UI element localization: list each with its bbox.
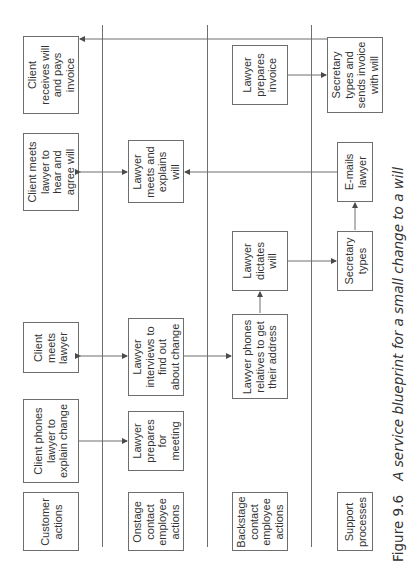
figure-caption: Figure 9.6 A service blueprint for a sma… [390,167,406,562]
service-blueprint-diagram: Customer actions Onstage contact employe… [0,0,419,587]
figure-number: Figure 9.6 [390,495,406,562]
flow-connectors [0,0,419,587]
figure-title: A service blueprint for a small change t… [390,167,406,481]
